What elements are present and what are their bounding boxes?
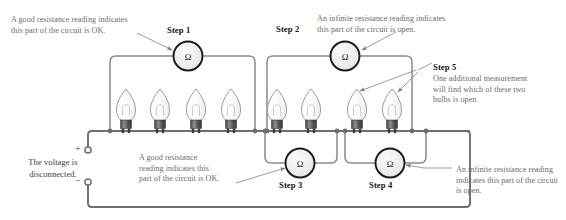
step-label-3: Step 3 (279, 180, 302, 190)
bulb-5 (268, 89, 287, 133)
annotation-bottom-mid: A good resistance reading indicates this… (139, 153, 249, 185)
leader-step4 (406, 165, 424, 168)
leader-step5-bulb8 (398, 72, 418, 92)
bulb-8 (383, 89, 402, 133)
ohm-symbol-2: Ω (342, 52, 349, 62)
leader-step5-tail (418, 63, 432, 70)
bulb-7 (348, 89, 367, 133)
bulb-2 (151, 89, 170, 133)
ohmmeter-step1[interactable]: Ω (174, 42, 203, 71)
annotation-step5-body: One additional measurement will find whi… (433, 74, 565, 106)
annotation-bottom-right: An infinite resistance reading indicates… (456, 165, 566, 197)
step-label-2: Step 2 (276, 24, 299, 34)
annotation-top-right: An infinite resistance reading indicates… (317, 14, 517, 35)
ohmmeter-step2[interactable]: Ω (331, 42, 360, 71)
step-label-4: Step 4 (369, 180, 392, 190)
ohmmeter-step4[interactable]: Ω (376, 149, 405, 178)
annotation-top-left: A good resistance reading indicates this… (11, 15, 181, 36)
figure-canvas: Ω Ω Ω Ω (0, 0, 566, 220)
ohmmeter-step3[interactable]: Ω (286, 149, 315, 178)
bulb-4 (222, 89, 241, 133)
bulb-6 (302, 89, 321, 133)
bulb-3 (187, 89, 206, 133)
step-label-5: Step 5 (433, 62, 456, 72)
bulb-1 (117, 89, 136, 133)
annotation-voltage-disconnected: The voltage is disconnected. (10, 157, 96, 180)
ohm-symbol-3: Ω (297, 159, 304, 169)
ohm-symbol-1: Ω (185, 52, 192, 62)
step-label-1: Step 1 (167, 25, 190, 35)
ohm-symbol-4: Ω (387, 159, 394, 169)
leader-step5-bulb7 (360, 70, 416, 91)
terminal-positive-sign: + (75, 143, 81, 154)
terminal-negative-sign: − (75, 175, 81, 186)
bulb-group (117, 89, 402, 133)
